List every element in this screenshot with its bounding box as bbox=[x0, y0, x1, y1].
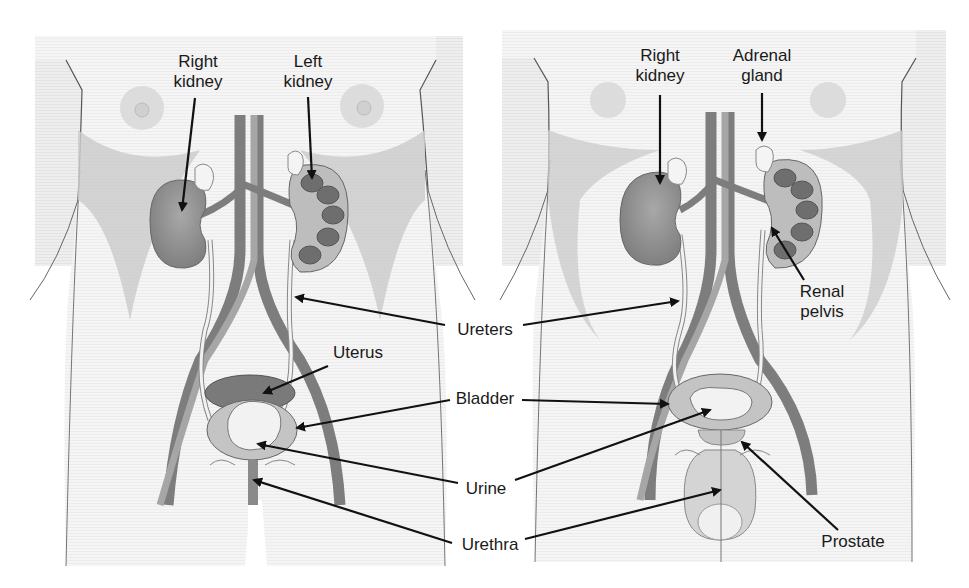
label-female-right-kidney: Right kidney bbox=[168, 52, 228, 92]
label-line: pelvis bbox=[792, 302, 852, 322]
label-adrenal-gland: Adrenal gland bbox=[722, 46, 802, 86]
label-prostate: Prostate bbox=[813, 532, 893, 552]
label-line: gland bbox=[722, 66, 802, 86]
label-renal-pelvis: Renal pelvis bbox=[792, 282, 852, 322]
label-line: Renal bbox=[792, 282, 852, 302]
adrenal-gland bbox=[756, 146, 773, 172]
female-panel bbox=[30, 36, 475, 566]
female-urine bbox=[228, 401, 281, 450]
label-line: Right bbox=[168, 52, 228, 72]
male-panel bbox=[500, 30, 950, 562]
label-line: kidney bbox=[630, 66, 690, 86]
label-urine: Urine bbox=[456, 479, 516, 499]
label-ureters: Ureters bbox=[445, 320, 525, 340]
label-line: kidney bbox=[168, 72, 228, 92]
male-right-kidney bbox=[620, 172, 681, 265]
label-bladder: Bladder bbox=[445, 389, 525, 409]
label-line: Right bbox=[630, 46, 690, 66]
label-line: Left bbox=[278, 52, 338, 72]
label-uterus: Uterus bbox=[328, 343, 388, 363]
label-female-left-kidney: Left kidney bbox=[278, 52, 338, 92]
label-male-right-kidney: Right kidney bbox=[630, 46, 690, 86]
label-line: kidney bbox=[278, 72, 338, 92]
label-line: Adrenal bbox=[722, 46, 802, 66]
label-urethra: Urethra bbox=[450, 535, 530, 555]
female-right-kidney bbox=[150, 180, 206, 268]
